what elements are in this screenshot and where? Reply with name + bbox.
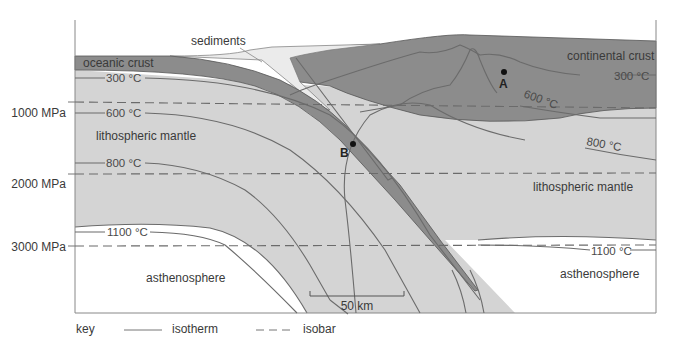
key-title: key (76, 322, 95, 336)
asthenosphere-label-right: asthenosphere (560, 267, 640, 281)
isotherm-label-600-left: 600 °C (106, 107, 141, 119)
scale-bar-label: 50 km (341, 299, 374, 313)
lithospheric-mantle-label-left: lithospheric mantle (96, 129, 196, 143)
oceanic-crust-label: oceanic crust (83, 56, 154, 70)
isotherm-label-1100-right: 1100 °C (591, 245, 632, 257)
isotherm-label-300-left: 300 °C (106, 72, 141, 84)
subduction-zone-diagram: 50 km 1000 MPa 2000 MPa 3000 MPa oceanic… (0, 0, 688, 354)
pressure-label-3000: 3000 MPa (11, 240, 66, 254)
sediments-label: sediments (191, 34, 246, 48)
isotherm-label-800-left: 800 °C (106, 157, 141, 169)
isotherm-label-1100-left: 1100 °C (107, 226, 148, 238)
isotherm-label-300-right: 300 °C (614, 70, 649, 82)
key-isotherm-label: isotherm (172, 322, 218, 336)
continental-crust-label: continental crust (567, 49, 655, 63)
point-b-marker (350, 141, 356, 147)
point-a-marker (501, 69, 507, 75)
pressure-label-2000: 2000 MPa (11, 177, 66, 191)
lithospheric-mantle-label-right: lithospheric mantle (533, 180, 633, 194)
pressure-label-1000: 1000 MPa (11, 106, 66, 120)
point-b-label: B (340, 146, 349, 160)
point-a-label: A (499, 77, 508, 91)
asthenosphere-label-left: asthenosphere (146, 271, 226, 285)
key-isobar-label: isobar (303, 322, 336, 336)
